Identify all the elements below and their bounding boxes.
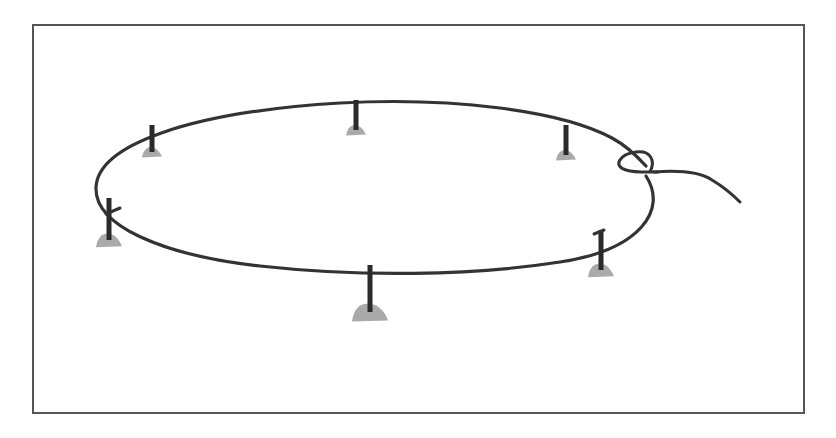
stake-bottom-center [368, 265, 373, 312]
stake-top-center [354, 100, 359, 130]
rope-loop [96, 102, 653, 274]
stake-left [107, 198, 112, 240]
rope-stakes-diagram [0, 0, 836, 438]
ground-mounds [96, 125, 614, 321]
rope-knot-loop [619, 152, 658, 172]
stake-top-right [564, 125, 569, 155]
stake-top-left [150, 125, 155, 152]
rope-loose-end [654, 171, 740, 202]
stake-right [599, 230, 604, 270]
